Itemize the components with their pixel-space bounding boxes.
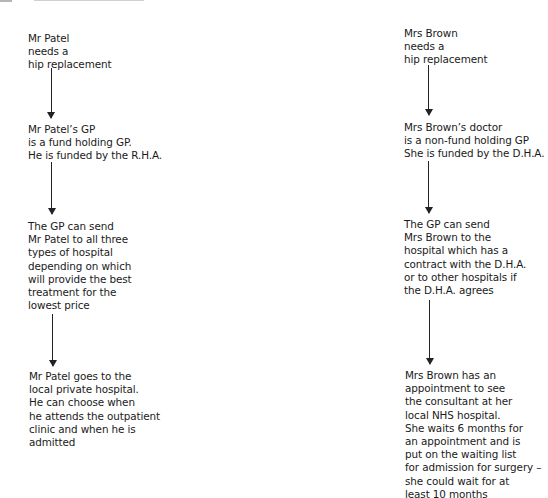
patel-node-gp: Mr Patel’s GP is a fund holding GP. He i… <box>28 123 162 163</box>
arrow-down-icon <box>429 300 430 364</box>
patel-node-need: Mr Patel needs a hip replacement <box>28 32 111 72</box>
brown-node-need: Mrs Brown needs a hip replacement <box>404 27 487 67</box>
header-cutoff-text <box>34 0 144 1</box>
brown-node-gp: Mrs Brown’s doctor is a non-fund holding… <box>404 121 544 161</box>
header-cutoff-mark <box>0 0 12 2</box>
arrow-down-icon <box>428 65 429 115</box>
patel-node-referral: The GP can send Mr Patel to all three ty… <box>28 220 132 312</box>
arrow-down-icon <box>51 162 52 214</box>
brown-node-outcome: Mrs Brown has an appointment to see the … <box>405 369 541 498</box>
brown-node-referral: The GP can send Mrs Brown to the hospita… <box>404 218 526 297</box>
patel-node-outcome: Mr Patel goes to the local private hospi… <box>29 370 160 449</box>
arrow-down-icon <box>52 314 53 366</box>
arrow-down-icon <box>51 68 52 118</box>
arrow-down-icon <box>428 161 429 213</box>
